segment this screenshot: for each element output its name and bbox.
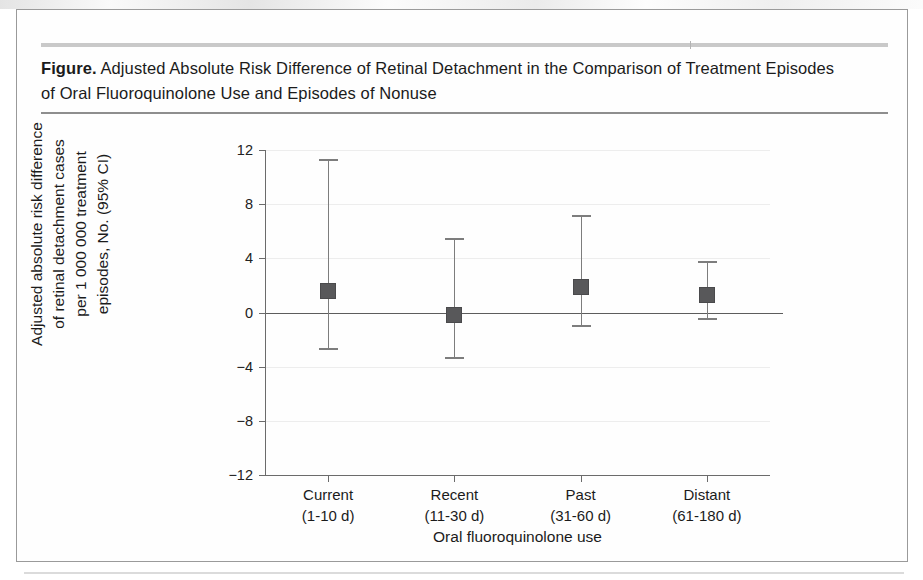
chart-plot-region: Adjusted absolute risk difference of ret… xyxy=(0,0,923,580)
page-bottom-rule xyxy=(24,572,904,574)
confidence-interval-cap-lower xyxy=(319,348,338,350)
y-axis-title-line-4: episodes, No. (95% CI) xyxy=(92,44,114,424)
x-axis-tick xyxy=(707,475,708,482)
data-point-marker xyxy=(699,287,715,303)
y-axis-tick xyxy=(259,475,266,476)
x-axis-tick xyxy=(328,475,329,482)
y-axis-tick-label: −4 xyxy=(213,359,253,375)
confidence-interval-cap-upper xyxy=(445,238,464,240)
data-point-marker xyxy=(573,279,589,295)
y-axis-title-line-2: of retinal detachment cases xyxy=(48,44,70,424)
y-axis-tick xyxy=(259,150,266,151)
gridline xyxy=(265,367,770,368)
x-axis-tick-label-category: Distant xyxy=(632,484,782,505)
confidence-interval-cap-lower xyxy=(445,357,464,359)
confidence-interval-line xyxy=(581,215,582,325)
x-axis-line xyxy=(265,475,770,476)
y-axis-tick xyxy=(259,204,266,205)
y-axis-title: Adjusted absolute risk difference of ret… xyxy=(26,44,114,424)
y-axis-tick-label: −12 xyxy=(213,467,253,483)
y-axis-tick-label: −8 xyxy=(213,413,253,429)
gridline xyxy=(265,258,770,259)
gridline xyxy=(265,150,770,151)
y-axis-tick xyxy=(259,258,266,259)
confidence-interval-cap-lower xyxy=(572,325,591,327)
confidence-interval-cap-upper xyxy=(572,215,591,217)
y-axis-tick xyxy=(259,421,266,422)
y-axis-tick-label: 4 xyxy=(213,250,253,266)
x-axis-tick xyxy=(454,475,455,482)
confidence-interval-line xyxy=(454,238,455,357)
confidence-interval-cap-lower xyxy=(698,318,717,320)
gridline xyxy=(265,421,770,422)
x-axis-tick-label: Distant(61-180 d) xyxy=(632,484,782,526)
y-axis-title-line-3: per 1 000 000 treatment xyxy=(70,44,92,424)
y-axis-tick xyxy=(259,367,266,368)
y-axis-tick-label: 12 xyxy=(213,142,253,158)
gridline xyxy=(265,204,770,205)
y-axis-tick-label: 0 xyxy=(213,305,253,321)
y-axis-tick xyxy=(259,313,266,314)
x-axis-tick-label-sublabel: (61-180 d) xyxy=(632,505,782,526)
confidence-interval-cap-upper xyxy=(319,159,338,161)
x-axis-title: Oral fluoroquinolone use xyxy=(265,528,770,546)
data-point-marker xyxy=(320,283,336,299)
y-axis-tick-label: 8 xyxy=(213,196,253,212)
plot-area xyxy=(265,150,770,475)
zero-reference-line xyxy=(265,313,783,314)
y-axis-title-line-1: Adjusted absolute risk difference xyxy=(26,44,48,424)
confidence-interval-cap-upper xyxy=(698,261,717,263)
x-axis-tick xyxy=(581,475,582,482)
data-point-marker xyxy=(446,307,462,323)
confidence-interval-line xyxy=(328,159,329,347)
